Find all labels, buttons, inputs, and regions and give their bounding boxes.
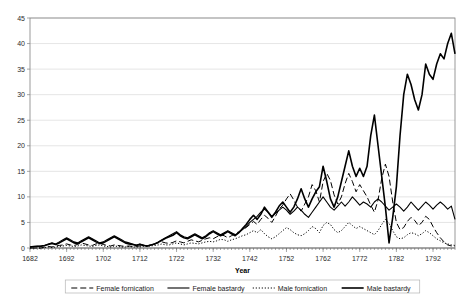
y-axis-tick-label: 0 <box>21 245 25 252</box>
y-axis-tick-label: 25 <box>17 117 25 124</box>
plot-area-border <box>30 18 455 248</box>
x-axis-tick-label: 1732 <box>205 255 221 262</box>
legend-label-female-bastardy: Female bastardy <box>192 285 245 293</box>
legend-label-male-bastardy: Male bastardy <box>367 285 411 293</box>
x-axis-tick-label: 1712 <box>132 255 148 262</box>
y-axis-tick-label: 45 <box>17 15 25 22</box>
legend-label-male-fornication: Male fornication <box>278 285 328 292</box>
x-axis-tick-label: 1682 <box>22 255 38 262</box>
line-chart: 0510152025303540451682169217021712172217… <box>0 0 472 303</box>
chart-container: 0510152025303540451682169217021712172217… <box>0 0 472 303</box>
y-axis-tick-label: 15 <box>17 168 25 175</box>
x-axis-tick-label: 1702 <box>95 255 111 262</box>
x-axis-tick-label: 1762 <box>315 255 331 262</box>
y-axis-tick-label: 35 <box>17 66 25 73</box>
x-axis-tick-label: 1792 <box>425 255 441 262</box>
x-axis-tick-label: 1742 <box>242 255 258 262</box>
series-line-male-bastardy <box>30 33 455 247</box>
series-line-female-fornication <box>30 164 455 248</box>
x-axis-tick-label: 1782 <box>389 255 405 262</box>
x-axis-tick-label: 1752 <box>279 255 295 262</box>
y-axis-tick-label: 10 <box>17 193 25 200</box>
x-axis-tick-label: 1692 <box>59 255 75 262</box>
y-axis-tick-label: 20 <box>17 142 25 149</box>
y-axis-tick-label: 30 <box>17 91 25 98</box>
y-axis-tick-label: 40 <box>17 40 25 47</box>
series-line-female-bastardy <box>30 197 455 247</box>
x-axis-tick-label: 1722 <box>169 255 185 262</box>
y-axis-tick-label: 5 <box>21 219 25 226</box>
legend-label-female-fornication: Female fornication <box>96 285 154 292</box>
x-axis-title: Year <box>235 267 250 274</box>
x-axis-tick-label: 1772 <box>352 255 368 262</box>
